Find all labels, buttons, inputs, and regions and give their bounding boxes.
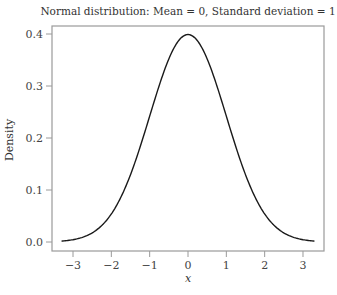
y-tick-label: 0.4 (26, 28, 44, 41)
x-axis: −3−2−10123 (65, 251, 307, 272)
x-tick-label: 3 (299, 259, 306, 272)
y-axis: 0.00.10.20.30.4 (26, 28, 53, 249)
x-axis-label: x (185, 272, 192, 285)
plot-frame (52, 26, 324, 251)
y-axis-label: Density (3, 118, 16, 161)
x-tick-label: −3 (65, 259, 81, 272)
x-tick-label: 0 (185, 259, 192, 272)
x-tick-label: −2 (103, 259, 119, 272)
y-tick-label: 0.1 (26, 184, 44, 197)
y-tick-label: 0.2 (26, 132, 44, 145)
x-tick-label: −1 (142, 259, 158, 272)
chart-title: Normal distribution: Mean = 0, Standard … (40, 5, 335, 17)
y-tick-label: 0.3 (26, 80, 44, 93)
density-chart: Normal distribution: Mean = 0, Standard … (0, 0, 337, 295)
density-curve (62, 35, 315, 242)
x-tick-label: 1 (223, 259, 230, 272)
y-tick-label: 0.0 (26, 236, 44, 249)
x-tick-label: 2 (261, 259, 268, 272)
